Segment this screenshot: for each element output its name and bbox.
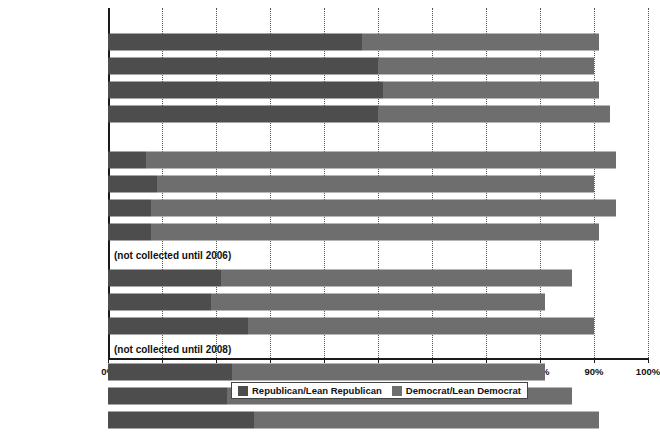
chart-row: 2017	[0, 408, 660, 432]
bar-segment-democrat	[211, 294, 546, 311]
chart-row: 2012	[0, 196, 660, 220]
stacked-bar	[108, 58, 594, 75]
chart-row: 2008	[0, 266, 660, 290]
stacked-bar	[108, 270, 572, 287]
group-header-3: Asian, Non-Hispanic,English-speaking onl…	[0, 338, 660, 360]
bar-segment-republican	[108, 152, 146, 169]
stacked-bar	[108, 224, 599, 241]
bar-segment-democrat	[146, 152, 616, 169]
stacked-bar	[108, 176, 594, 193]
stacked-bar	[108, 364, 545, 381]
bar-segment-democrat	[378, 58, 594, 75]
legend-swatch-republican	[238, 386, 248, 396]
chart-row: 2002	[0, 54, 660, 78]
legend-label-republican: Republican/Lean Republican	[252, 385, 382, 396]
legend-label-democrat: Democrat/Lean Democrat	[406, 385, 521, 396]
bar-segment-republican	[108, 270, 221, 287]
bar-segment-republican	[108, 176, 157, 193]
bar-segment-republican	[108, 106, 378, 123]
bar-segment-republican	[108, 224, 151, 241]
group-header-1: Black	[0, 126, 660, 148]
bar-segment-republican	[108, 412, 254, 429]
bar-segment-republican	[108, 364, 232, 381]
stacked-bar	[108, 200, 616, 217]
bar-segment-democrat	[232, 364, 545, 381]
stacked-bar	[108, 34, 599, 51]
bar-segment-republican	[108, 200, 151, 217]
chart-row: 1992	[0, 30, 660, 54]
bar-segment-democrat	[221, 270, 572, 287]
bar-segment-republican	[108, 388, 227, 405]
chart-legend: Republican/Lean Republican Democrat/Lean…	[231, 382, 528, 399]
bar-segment-republican	[108, 34, 362, 51]
bar-segment-democrat	[248, 318, 594, 335]
bar-segment-democrat	[378, 106, 610, 123]
group-note-3: (not collected until 2008)	[114, 344, 231, 355]
bar-segment-democrat	[157, 176, 594, 193]
chart-row: 2012	[0, 78, 660, 102]
chart-row: 2014	[0, 290, 660, 314]
chart-row: 1992	[0, 148, 660, 172]
bar-segment-democrat	[362, 34, 600, 51]
chart-row: 2017	[0, 102, 660, 126]
stacked-bar	[108, 318, 594, 335]
chart-row: 2002	[0, 172, 660, 196]
bar-segment-republican	[108, 82, 383, 99]
bar-segment-republican	[108, 294, 211, 311]
legend-swatch-democrat	[392, 386, 402, 396]
group-note-2: (not collected until 2006)	[114, 250, 231, 261]
stacked-bar	[108, 106, 610, 123]
legend-item-republican: Republican/Lean Republican	[238, 385, 382, 396]
bar-segment-democrat	[151, 224, 599, 241]
stacked-bar	[108, 82, 599, 99]
bar-segment-democrat	[254, 412, 600, 429]
group-header-2: Hispanic(not collected until 2006)	[0, 244, 660, 266]
bar-segment-republican	[108, 318, 248, 335]
stacked-bar	[108, 152, 616, 169]
stacked-bar	[108, 294, 545, 311]
chart-row: 2008	[0, 360, 660, 384]
legend-item-democrat: Democrat/Lean Democrat	[392, 385, 521, 396]
chart-row: 2017	[0, 220, 660, 244]
stacked-bar	[108, 412, 599, 429]
bar-segment-democrat	[151, 200, 615, 217]
chart-row: 2017	[0, 314, 660, 338]
group-header-0: White, Non-Hispanic	[0, 8, 660, 30]
bar-segment-republican	[108, 58, 378, 75]
bar-segment-democrat	[383, 82, 599, 99]
